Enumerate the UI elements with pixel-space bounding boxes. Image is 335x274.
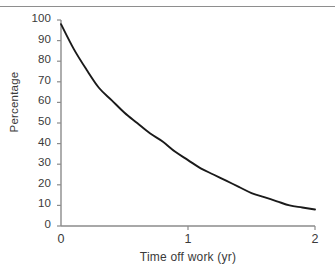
y-tick-label: 10: [25, 197, 51, 209]
y-tick-label: 50: [25, 115, 51, 127]
data-series-line: [61, 24, 315, 209]
y-axis-title: Percentage: [8, 62, 20, 142]
x-tick-label: 2: [305, 232, 325, 246]
y-tick-label: 60: [25, 94, 51, 106]
y-tick-label: 30: [25, 156, 51, 168]
x-axis-title: Time off work (yr): [61, 250, 315, 264]
y-tick-label: 40: [25, 136, 51, 148]
y-tick-label: 70: [25, 74, 51, 86]
y-tick-label: 80: [25, 53, 51, 65]
x-tick-label: 0: [51, 232, 71, 246]
y-tick-label: 0: [25, 218, 51, 230]
chart-figure: 0102030405060708090100 012 Percentage Ti…: [0, 0, 335, 274]
x-tick-label: 1: [178, 232, 198, 246]
y-tick-label: 90: [25, 33, 51, 45]
y-tick-label: 100: [25, 12, 51, 24]
y-tick-label: 20: [25, 177, 51, 189]
